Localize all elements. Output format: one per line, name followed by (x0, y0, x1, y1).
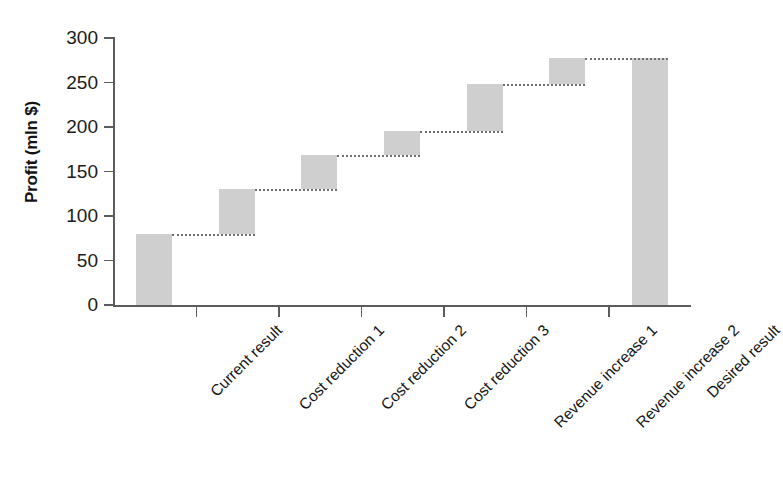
bar-current-result[interactable] (136, 234, 172, 305)
connector-line (337, 155, 420, 157)
connector-line (420, 131, 503, 133)
x-tick-separator (443, 307, 445, 317)
y-tick-label: 200 (38, 117, 98, 136)
x-axis-label-cost-reduction-3: Cost reduction 3 (461, 322, 552, 413)
y-axis-line (113, 37, 115, 307)
y-tick-150 (104, 171, 113, 173)
y-tick-label: 300 (38, 28, 98, 47)
connector-line (503, 84, 586, 86)
x-axis-line (113, 305, 691, 307)
bar-revenue-increase-1[interactable] (467, 84, 503, 130)
y-tick-100 (104, 215, 113, 217)
y-tick-label: 250 (38, 73, 98, 92)
y-tick-50 (104, 260, 113, 262)
connector-line (172, 234, 255, 236)
x-tick-separator (608, 307, 610, 317)
y-tick-250 (104, 82, 113, 84)
y-tick-200 (104, 126, 113, 128)
bar-cost-reduction-1[interactable] (219, 189, 255, 234)
connector-line (585, 58, 668, 60)
x-tick-separator (526, 307, 528, 317)
y-tick-label: 50 (38, 251, 98, 270)
x-axis-label-cost-reduction-2: Cost reduction 2 (378, 322, 469, 413)
y-tick-label: 150 (38, 162, 98, 181)
x-axis-label-cost-reduction-1: Cost reduction 1 (296, 322, 387, 413)
y-tick-0 (104, 304, 113, 306)
y-tick-label: 100 (38, 206, 98, 225)
bar-desired-result[interactable] (632, 58, 668, 305)
y-tick-label: 0 (38, 295, 98, 314)
bar-revenue-increase-2[interactable] (549, 58, 585, 84)
y-tick-300 (104, 37, 113, 39)
x-axis-label-current-result: Current result (208, 322, 286, 400)
x-tick-separator (196, 307, 198, 317)
x-tick-separator (361, 307, 363, 317)
bar-cost-reduction-2[interactable] (301, 155, 337, 189)
x-axis-label-desired-result: Desired result (704, 322, 783, 401)
connector-line (255, 189, 338, 191)
bar-cost-reduction-3[interactable] (384, 131, 420, 156)
x-tick-separator (278, 307, 280, 317)
